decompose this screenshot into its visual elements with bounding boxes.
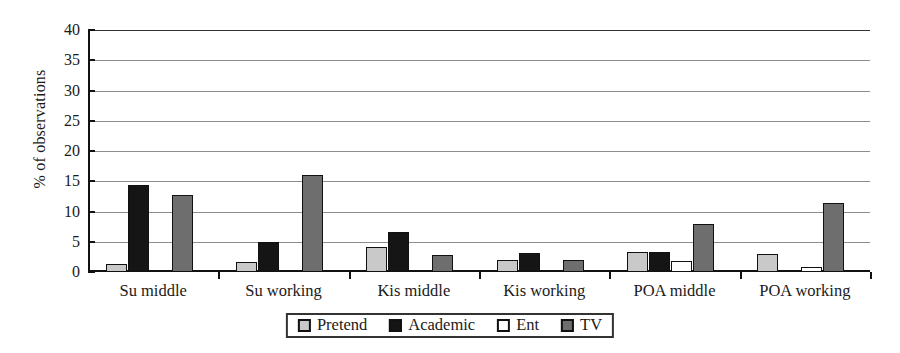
y-axis-tick-label: 0 — [72, 263, 80, 281]
bar-academic — [258, 242, 279, 272]
y-axis-tick-label: 15 — [64, 172, 80, 190]
bar-tv — [172, 195, 193, 272]
legend-item-academic[interactable]: Academic — [389, 315, 475, 335]
legend-swatch-pretend-icon — [298, 319, 311, 332]
bar-pretend — [236, 262, 257, 272]
x-axis-tick-labels: Su middleSu workingKis middleKis working… — [88, 281, 870, 307]
legend-swatch-ent-icon — [497, 319, 510, 332]
chart-legend: PretendAcademicEntTV — [286, 313, 614, 338]
y-axis-tick-mark — [88, 180, 95, 182]
legend-item-pretend[interactable]: Pretend — [298, 315, 367, 335]
bar-chart: % of observations 0510152025303540 Su mi… — [0, 0, 900, 353]
x-axis-tick-mark — [479, 272, 481, 279]
x-axis-tick-label: Su working — [245, 281, 322, 301]
x-axis-tick-label: POA middle — [633, 281, 715, 301]
y-axis-tick-mark — [88, 211, 95, 213]
legend-item-tv[interactable]: TV — [561, 315, 602, 335]
x-axis-tick-label: Kis working — [503, 281, 585, 301]
bars-layer — [88, 30, 870, 272]
x-axis-tick-label: Su middle — [119, 281, 186, 301]
bar-tv — [302, 175, 323, 272]
bar-tv — [693, 224, 714, 272]
x-axis-tick-mark — [740, 272, 742, 279]
bar-pretend — [757, 254, 778, 272]
y-axis-tick-label: 25 — [64, 112, 80, 130]
x-axis-tick-mark — [218, 272, 220, 279]
bar-academic — [388, 232, 409, 272]
bar-group — [88, 30, 218, 272]
bar-tv — [823, 203, 844, 272]
y-axis-tick-label: 20 — [64, 142, 80, 160]
bar-group — [740, 30, 870, 272]
legend-label: Ent — [516, 315, 539, 335]
y-axis-tick-label: 35 — [64, 51, 80, 69]
y-axis-tick-labels: 0510152025303540 — [40, 30, 88, 272]
bar-ent — [671, 261, 692, 272]
y-axis-tick-label: 5 — [72, 233, 80, 251]
bar-pretend — [627, 252, 648, 272]
bar-tv — [563, 260, 584, 272]
legend-item-ent[interactable]: Ent — [497, 315, 539, 335]
bar-academic — [128, 185, 149, 272]
y-axis-tick-mark — [88, 29, 95, 31]
legend-swatch-tv-icon — [561, 319, 574, 332]
bar-pretend — [366, 247, 387, 272]
y-axis-tick-label: 30 — [64, 82, 80, 100]
x-axis-tick-label: POA working — [759, 281, 850, 301]
x-axis-tick-mark — [870, 272, 872, 279]
y-axis-tick-mark — [88, 241, 95, 243]
x-axis-tick-mark — [349, 272, 351, 279]
legend-swatch-academic-icon — [389, 319, 402, 332]
legend-label: TV — [580, 315, 602, 335]
y-axis-tick-mark — [88, 90, 95, 92]
bar-pretend — [497, 260, 518, 272]
bar-group — [349, 30, 479, 272]
y-axis-tick-label: 40 — [64, 21, 80, 39]
bar-group — [218, 30, 348, 272]
bar-tv — [432, 255, 453, 272]
y-axis-tick-label: 10 — [64, 203, 80, 221]
legend-label: Academic — [408, 315, 475, 335]
bar-pretend — [106, 264, 127, 272]
x-axis-tick-mark — [609, 272, 611, 279]
bar-group — [479, 30, 609, 272]
x-axis-tick-label: Kis middle — [377, 281, 450, 301]
bar-group — [609, 30, 739, 272]
legend-label: Pretend — [317, 315, 367, 335]
y-axis-tick-mark — [88, 120, 95, 122]
x-axis-tick-marks — [88, 272, 870, 280]
y-axis-tick-mark — [88, 271, 95, 273]
bar-academic — [649, 252, 670, 272]
bar-academic — [519, 253, 540, 272]
y-axis-tick-mark — [88, 59, 95, 61]
y-axis-tick-mark — [88, 150, 95, 152]
